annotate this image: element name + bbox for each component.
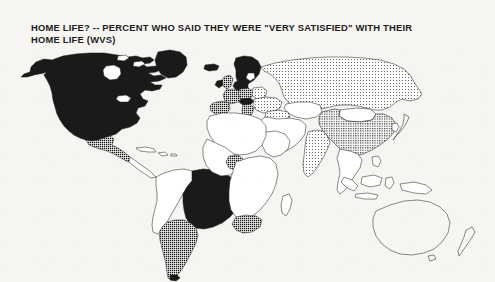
region-sulawesi <box>385 177 394 189</box>
country-ireland <box>215 80 223 88</box>
world-map <box>0 44 495 282</box>
country-new-zealand <box>458 227 475 256</box>
country-greenland <box>155 50 187 78</box>
country-germany <box>238 88 253 100</box>
region-central-east-africa <box>229 156 278 220</box>
region-philippines <box>372 156 381 167</box>
region-borneo <box>361 175 382 187</box>
title-line-1: HOME LIFE? -- PERCENT WHO SAID THEY WERE… <box>31 22 476 34</box>
region-switzerland-austria <box>239 98 254 105</box>
world-map-svg <box>0 44 495 282</box>
country-united-kingdom <box>222 75 233 89</box>
region-new-guinea <box>400 182 432 194</box>
region-central-america <box>129 157 156 178</box>
region-caribbean-puerto-rico <box>171 154 177 156</box>
region-argentina-chile <box>159 220 198 280</box>
country-russia <box>261 57 422 110</box>
country-south-africa <box>232 215 262 233</box>
country-canada-usa <box>44 53 166 141</box>
country-madagascar <box>281 194 292 216</box>
map-page: HOME LIFE? -- PERCENT WHO SAID THEY WERE… <box>0 0 495 282</box>
region-korea <box>392 123 399 132</box>
country-iceland <box>204 64 219 71</box>
region-tierra-del-fuego <box>170 275 180 281</box>
country-india <box>303 130 330 177</box>
region-caribbean-hispaniola <box>158 152 168 156</box>
region-java <box>355 193 378 199</box>
country-tasmania <box>428 255 436 261</box>
country-australia <box>373 200 450 255</box>
region-caribbean-cuba <box>136 147 156 152</box>
